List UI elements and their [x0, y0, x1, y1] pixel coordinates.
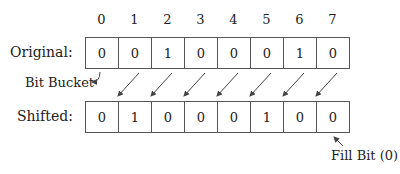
fill-bit-arrow-icon [334, 137, 343, 146]
shift-arrows [0, 0, 400, 174]
shift-arrow-icon [118, 73, 139, 96]
shift-arrow-icon [283, 73, 304, 96]
shift-arrow-icon [316, 73, 337, 96]
bit-bucket-arrow-icon [92, 72, 100, 82]
shift-arrow-icon [184, 73, 205, 96]
shift-arrow-icon [217, 73, 238, 96]
shift-arrow-icon [151, 73, 172, 96]
shift-arrow-icon [250, 73, 271, 96]
